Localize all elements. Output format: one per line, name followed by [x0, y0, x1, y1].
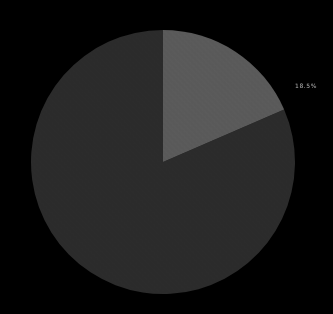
wedge-percent-label: 18.5%: [295, 83, 317, 90]
pie-svg: [0, 0, 333, 314]
plot-area: 18.5%: [0, 0, 333, 314]
pie-chart-figure: 18.5%: [0, 0, 333, 314]
